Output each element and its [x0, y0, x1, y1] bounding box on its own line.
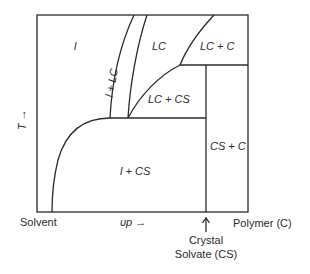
region-label-cs-c: CS + C [210, 140, 246, 152]
region-label-l: l [74, 40, 76, 52]
region-label-lc-cs: LC + CS [148, 93, 190, 105]
x-endpoint-solvent: Solvent [20, 216, 57, 228]
x-axis-label: υp → [120, 216, 146, 228]
boundary-l-lcs [52, 118, 110, 212]
y-axis-label: T → [16, 109, 28, 130]
region-label-lc-c: LC + C [200, 40, 235, 52]
region-label-lc: LC [152, 40, 166, 52]
boundary-l-lc-left [110, 15, 134, 118]
cs-marker-line2: Solvate (CS) [170, 248, 242, 260]
cs-marker-line1: Crystal [184, 234, 228, 246]
boundary-lc-lccs [128, 65, 180, 118]
x-endpoint-polymer: Polymer (C) [233, 217, 292, 229]
region-label-l-cs: l + CS [120, 165, 150, 177]
